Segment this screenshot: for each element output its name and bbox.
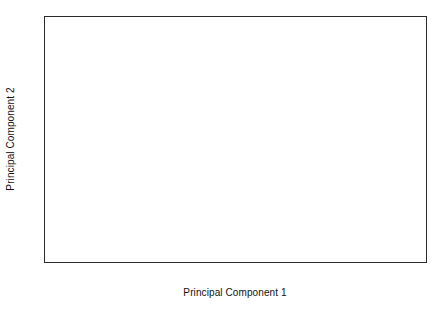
scatter-plot-figure: Principal Component 1 Principal Componen… — [0, 0, 441, 309]
y-axis-title: Principal Component 2 — [5, 87, 16, 191]
x-axis-title: Principal Component 1 — [183, 287, 287, 298]
